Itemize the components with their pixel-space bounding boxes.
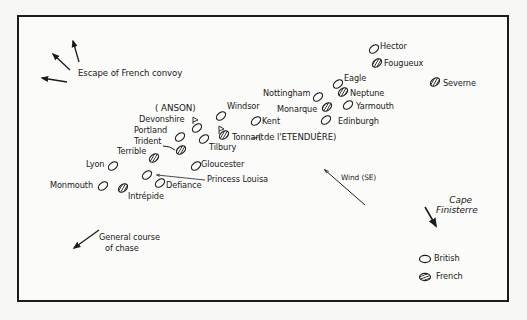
ship-monmouth-icon	[97, 180, 109, 192]
ship-label-neptune: Neptune	[350, 89, 384, 97]
ship-monarque-icon	[321, 101, 333, 113]
ship-label-fougueux: Fougueux	[384, 59, 423, 67]
ship-label-monarque: Monarque	[277, 105, 317, 113]
ship-label-trident: Trident	[134, 137, 161, 145]
ship-terrible-icon	[148, 152, 160, 164]
ship-label-edinburgh: Edinburgh	[338, 117, 379, 125]
escape-arrows-icon	[42, 41, 79, 82]
ship-windsor-icon	[215, 110, 227, 122]
ship-kent-icon	[250, 115, 262, 127]
ship-label-yarmouth: Yarmouth	[356, 102, 394, 110]
ship-edinburgh-icon	[320, 114, 332, 126]
course-label-line1: General course	[99, 233, 160, 241]
legend-british-label: British	[434, 254, 460, 262]
ship-label-kent: Kent	[262, 117, 280, 125]
wind-label: Wind (SE)	[341, 174, 376, 181]
ship-trident-icon	[175, 144, 187, 156]
legend-french-icon	[420, 273, 431, 280]
ship-label-gloucester: Gloucester	[201, 160, 244, 168]
legend-british-icon	[420, 255, 431, 262]
etenduere-label: -( de l'ETENDUÈRE)	[255, 133, 336, 142]
ship-fougueux-icon	[371, 57, 383, 69]
ship-label-devonshire: Devonshire	[139, 115, 184, 123]
trident-pointer	[163, 146, 175, 150]
ship-yarmouth-icon	[342, 99, 354, 111]
ship-hector-icon	[368, 43, 380, 55]
ship-lyon-icon	[107, 160, 119, 172]
ship-severne-icon	[429, 76, 441, 88]
ship-label-monmouth: Monmouth	[50, 181, 93, 189]
ship-label-nottingham: Nottingham	[263, 89, 310, 97]
ship-label-lyon: Lyon	[86, 160, 104, 168]
devonshire-flag-icon	[193, 117, 198, 124]
ship-princess-louisa-icon	[141, 169, 153, 181]
finisterre-arrow-icon	[425, 207, 436, 226]
ship-label-intrepide: Intrépide	[128, 192, 164, 200]
anson-label: ( ANSON)	[155, 104, 196, 113]
ship-label-tilbury: Tilbury	[209, 143, 236, 151]
ship-label-windsor: Windsor	[227, 102, 260, 110]
ship-label-portland: Portland	[134, 126, 167, 134]
ship-nottingham-icon	[312, 91, 324, 103]
ship-label-hector: Hector	[380, 42, 407, 50]
ship-label-terrible: Terrible	[117, 147, 146, 155]
course-arrow-icon	[74, 230, 99, 248]
legend-french-label: French	[436, 272, 463, 280]
ship-label-severne: Severne	[443, 79, 476, 87]
cape-label-line2: Finisterre	[436, 206, 478, 215]
ship-label-princess-louisa: Princess Louisa	[207, 175, 268, 183]
escape-label: Escape of French convoy	[78, 69, 182, 78]
ship-label-eagle: Eagle	[344, 74, 366, 82]
battle-diagram: Escape of French convoy General course o…	[0, 0, 527, 320]
course-label-line2: of chase	[105, 244, 139, 252]
ship-label-defiance: Defiance	[166, 181, 201, 189]
ship-label-tonnant: Tonnant	[232, 133, 264, 141]
ship-portland-icon	[174, 131, 186, 143]
ship-defiance-icon	[154, 177, 166, 189]
